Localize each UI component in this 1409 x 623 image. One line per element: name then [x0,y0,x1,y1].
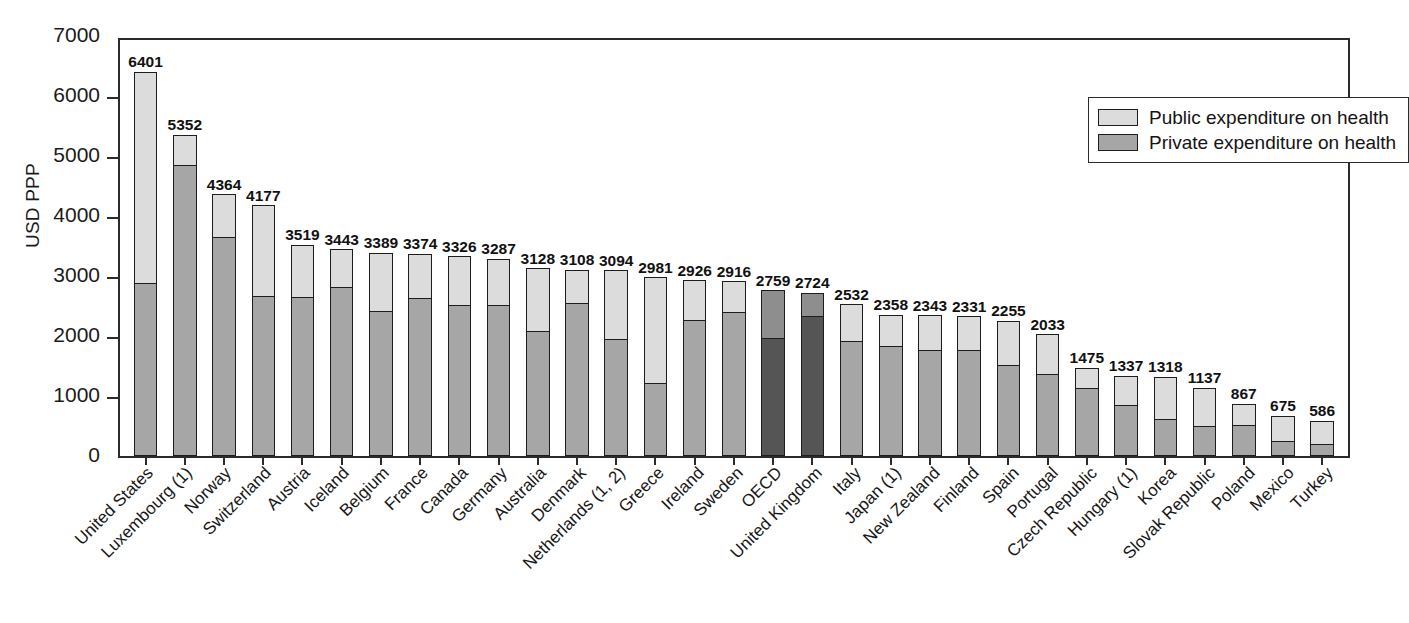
bar-slot: 5352 [165,40,204,456]
bar-segment-public [880,316,902,347]
bar-segment-private [1037,374,1059,455]
bar-segment-private [958,350,980,455]
bar-value-label: 2343 [913,298,947,314]
bar[interactable]: 3389 [369,253,393,456]
bar[interactable]: 4364 [212,194,236,456]
bar-segment-public [802,294,824,316]
bar[interactable]: 4177 [252,205,276,456]
bar-segment-public [449,257,471,305]
bar-value-label: 3519 [285,227,319,243]
bar-segment-private [1272,441,1294,455]
bar-segment-public [331,250,353,286]
y-axis-tick-label: 0 [88,444,100,465]
bar-segment-private [802,316,824,455]
y-axis-tick-mark [107,397,118,399]
bar-slot: 2255 [989,40,1028,456]
bar[interactable]: 2759 [761,290,785,456]
bar-value-label: 2916 [717,264,751,280]
bar-segment-private [135,283,157,455]
bar-value-label: 5352 [168,117,202,133]
bar[interactable]: 3443 [330,249,354,456]
bar[interactable]: 3094 [604,270,628,456]
bar[interactable]: 2343 [918,315,942,456]
bar-segment-public [409,255,431,298]
bar[interactable]: 2532 [840,304,864,456]
bar[interactable]: 2331 [957,316,981,456]
bar[interactable]: 675 [1271,416,1295,457]
bar-slot: 6401 [126,40,165,456]
bar-value-label: 1337 [1109,358,1143,374]
bar-segment-public [253,206,275,296]
bar[interactable]: 2358 [879,315,903,456]
bar-value-label: 2532 [834,287,868,303]
bar-segment-public [1076,369,1098,388]
bar-segment-public [292,246,314,297]
bar[interactable]: 586 [1310,421,1334,456]
y-axis-tick-mark [107,277,118,279]
legend-item-private: Private expenditure on health [1098,130,1396,155]
bar-segment-private [605,339,627,455]
y-axis-ticks: 01000200030004000500060007000 [0,38,118,458]
bar-value-label: 2724 [795,275,829,291]
bar-segment-private [1194,426,1216,455]
bar-segment-private [723,312,745,455]
bar-value-label: 2033 [1030,317,1064,333]
x-axis-label-slot: Czech Republic [1069,462,1108,622]
bar-segment-private [253,296,275,455]
x-axis-label-slot: Turkey [1305,462,1344,622]
bar[interactable]: 867 [1232,404,1256,456]
bar[interactable]: 2916 [722,281,746,456]
bar[interactable]: 5352 [173,135,197,456]
bar-slot: 3094 [597,40,636,456]
bar[interactable]: 1137 [1193,388,1217,456]
bar[interactable]: 3519 [291,245,315,456]
bar-segment-private [488,305,510,455]
bar-segment-public [762,291,784,338]
x-axis-label-slot: Ireland [675,462,714,622]
bar[interactable]: 2033 [1036,334,1060,456]
bar-value-label: 3128 [521,251,555,267]
bar-segment-public [566,271,588,304]
bar[interactable]: 1337 [1114,376,1138,456]
bar[interactable]: 1318 [1154,377,1178,456]
bar-segment-private [684,320,706,455]
bar-value-label: 867 [1231,386,1257,402]
y-axis-tick-label: 1000 [53,384,100,405]
bar[interactable]: 2981 [644,277,668,456]
bar[interactable]: 3128 [526,268,550,456]
bar-value-label: 3374 [403,236,437,252]
bar-segment-private [919,350,941,455]
bar-segment-private [841,341,863,455]
bar-slot: 2343 [910,40,949,456]
bar-value-label: 3108 [560,252,594,268]
bar-segment-public [1115,377,1137,405]
bar[interactable]: 6401 [134,72,158,456]
bar[interactable]: 3326 [448,256,472,456]
bar-segment-public [841,305,863,341]
bar-segment-public [370,254,392,311]
bar-value-label: 2255 [991,303,1025,319]
bar[interactable]: 2255 [997,321,1021,456]
bar-segment-private [762,338,784,455]
bar-value-label: 675 [1270,398,1296,414]
x-axis-label-slot: France [400,462,439,622]
y-axis-tick-mark [107,97,118,99]
bar[interactable]: 1475 [1075,368,1099,457]
bar[interactable]: 3374 [408,254,432,456]
bar-segment-public [723,282,745,312]
y-axis-tick-label: 5000 [53,144,100,165]
bar[interactable]: 3287 [487,259,511,456]
bar-segment-public [684,281,706,319]
bar-slot: 2724 [793,40,832,456]
bar[interactable]: 2926 [683,280,707,456]
bar-value-label: 2358 [874,297,908,313]
bar-segment-public [1037,335,1059,374]
x-axis-label-slot: Canada [439,462,478,622]
bar-segment-private [998,365,1020,455]
x-axis-label-slot: Norway [203,462,242,622]
bar[interactable]: 2724 [801,293,825,456]
bar[interactable]: 3108 [565,270,589,456]
bar-slot: 2926 [675,40,714,456]
bar-slot: 3443 [322,40,361,456]
